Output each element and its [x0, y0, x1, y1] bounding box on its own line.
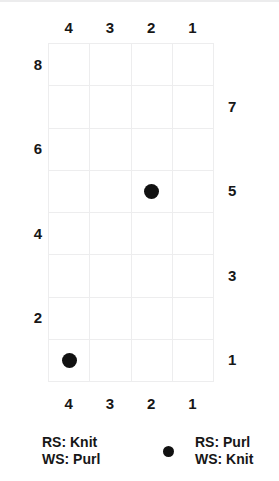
purl-dot-icon — [163, 446, 174, 457]
purl-dot-icon — [62, 353, 77, 368]
stitch-cell-r3c4 — [49, 255, 90, 297]
stitch-cell-r1c2 — [132, 340, 173, 382]
column-header-top-4: 1 — [172, 18, 213, 38]
row-label-right-3: 3 — [222, 254, 262, 296]
row-labels-left: 8 6 4 2 — [8, 43, 48, 381]
stitch-cell-r5c1 — [173, 171, 214, 213]
column-header-top-1: 4 — [48, 18, 89, 38]
stitch-cell-r3c2 — [132, 255, 173, 297]
column-header-bottom-2: 3 — [89, 394, 130, 414]
stitch-cell-r1c1 — [173, 340, 214, 382]
stitch-cell-r3c1 — [173, 255, 214, 297]
chart-legend: RS: Knit WS: Purl RS: Purl WS: Knit — [0, 428, 279, 474]
row-labels-right: 7 5 3 1 — [222, 43, 262, 381]
legend-knit-line1: RS: Knit — [42, 434, 97, 450]
column-header-bottom-4: 1 — [172, 394, 213, 414]
column-headers-top: 4 3 2 1 — [48, 18, 213, 38]
row-label-left-2: 2 — [8, 297, 48, 339]
stitch-cell-r6c4 — [49, 129, 90, 171]
stitch-cell-r3c3 — [90, 255, 131, 297]
stitch-cell-r2c3 — [90, 298, 131, 340]
row-label-left-6: 6 — [8, 128, 48, 170]
stitch-cell-r6c2 — [132, 129, 173, 171]
legend-item-purl: RS: Purl WS: Knit — [155, 428, 253, 474]
stitch-cell-r8c2 — [132, 44, 173, 86]
stitch-cell-r4c2 — [132, 213, 173, 255]
stitch-cell-r8c4 — [49, 44, 90, 86]
column-header-bottom-1: 4 — [48, 394, 89, 414]
stitch-cell-r5c2 — [132, 171, 173, 213]
stitch-cell-r7c4 — [49, 86, 90, 128]
column-header-top-2: 3 — [89, 18, 130, 38]
stitch-cell-r8c1 — [173, 44, 214, 86]
stitch-cell-r4c1 — [173, 213, 214, 255]
stitch-cell-r5c3 — [90, 171, 131, 213]
legend-item-knit-label: RS: Knit WS: Purl — [42, 434, 100, 468]
stitch-cell-r1c4 — [49, 340, 90, 382]
row-label-right-5: 5 — [222, 170, 262, 212]
stitch-cell-r2c4 — [49, 298, 90, 340]
knitting-stitch-chart: 4 3 2 1 8 6 4 2 — [0, 0, 279, 481]
legend-item-knit: RS: Knit WS: Purl — [42, 428, 100, 474]
column-headers-bottom: 4 3 2 1 — [48, 394, 213, 414]
stitch-cell-r2c2 — [132, 298, 173, 340]
stitch-cell-r6c3 — [90, 129, 131, 171]
stitch-cell-r7c1 — [173, 86, 214, 128]
purl-dot-icon — [144, 184, 159, 199]
stitch-cell-r1c3 — [90, 340, 131, 382]
row-label-left-8: 8 — [8, 43, 48, 85]
stitch-cell-r2c1 — [173, 298, 214, 340]
column-header-bottom-3: 2 — [131, 394, 172, 414]
legend-item-purl-label: RS: Purl WS: Knit — [195, 434, 253, 468]
row-label-right-7: 7 — [222, 85, 262, 127]
stitch-cell-r8c3 — [90, 44, 131, 86]
stitch-cell-r4c4 — [49, 213, 90, 255]
stitch-cell-r5c4 — [49, 171, 90, 213]
legend-knit-line2: WS: Purl — [42, 451, 100, 467]
legend-purl-line1: RS: Purl — [195, 434, 250, 450]
purl-dot-swatch — [155, 438, 181, 464]
legend-purl-line2: WS: Knit — [195, 451, 253, 467]
stitch-cell-r6c1 — [173, 129, 214, 171]
row-label-left-4: 4 — [8, 212, 48, 254]
stitch-grid — [48, 43, 214, 382]
stitch-cell-r4c3 — [90, 213, 131, 255]
column-header-top-3: 2 — [131, 18, 172, 38]
stitch-cell-r7c2 — [132, 86, 173, 128]
row-label-right-1: 1 — [222, 339, 262, 381]
stitch-cell-r7c3 — [90, 86, 131, 128]
